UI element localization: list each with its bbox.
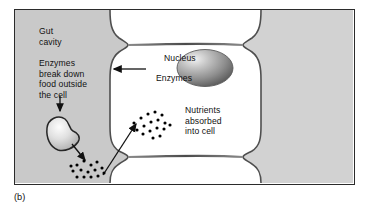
figure-caption: (b) (14, 192, 25, 202)
figure-frame: Gut cavity Enzymes break down food outsi… (14, 9, 355, 185)
cell-junction-lower (128, 156, 243, 157)
label-nutrients: Nutrients (77, 184, 112, 185)
label-gut-cavity: Gut cavity (39, 26, 62, 47)
label-enzymes-break-down: Enzymes break down food outside the cell (39, 58, 87, 100)
label-nucleus: Nucleus (164, 53, 196, 64)
label-nutrients-absorbed: Nutrients absorbed into cell (185, 105, 222, 137)
cell-junction-upper (128, 44, 243, 45)
figure-root: Gut cavity Enzymes break down food outsi… (0, 0, 369, 215)
label-enzymes: Enzymes (156, 73, 192, 84)
